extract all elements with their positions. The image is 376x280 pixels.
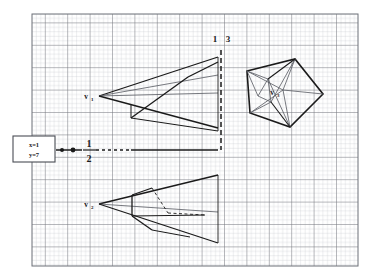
callout-line-2: y=7 <box>29 151 40 158</box>
callout-line-1: x=1 <box>29 141 39 148</box>
geometry-figure: x=1 y=7 v 1 v 2 v 3 1 3 1 2 <box>0 0 376 280</box>
callout-box: x=1 y=7 <box>13 136 55 162</box>
axis-dot-right <box>71 148 76 153</box>
graph-paper <box>32 14 358 266</box>
label-one: 1 <box>213 34 218 44</box>
vertex-label-v2-base: v <box>84 200 88 209</box>
grid-fill <box>32 14 358 266</box>
vertex-label-v3-base: v <box>270 88 274 97</box>
axis-dot-left <box>60 148 64 152</box>
callout-box-border <box>13 136 55 162</box>
fraction-numerator: 1 <box>87 138 92 149</box>
vertex-label-v1-base: v <box>84 92 88 101</box>
label-three: 3 <box>226 34 231 44</box>
fraction-denominator: 2 <box>87 153 92 164</box>
